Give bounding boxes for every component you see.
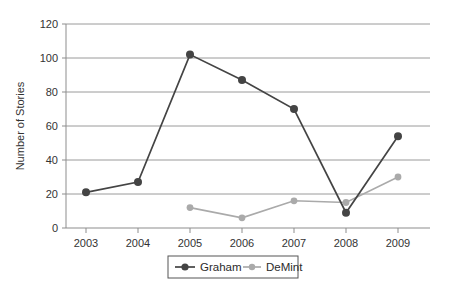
legend-swatch-demint-marker bbox=[249, 264, 255, 270]
chart-background bbox=[0, 0, 452, 291]
legend-label-demint: DeMint bbox=[266, 261, 303, 273]
demint-point bbox=[291, 197, 298, 204]
y-tick-label: 20 bbox=[46, 188, 58, 200]
y-tick-label: 100 bbox=[40, 52, 58, 64]
y-tick-label: 0 bbox=[52, 222, 58, 234]
line-chart: 120 100 80 60 40 20 0 2003 2004 2005 200… bbox=[0, 0, 452, 291]
demint-point bbox=[187, 204, 194, 211]
legend-label-graham: Graham bbox=[200, 261, 242, 273]
x-tick-label: 2008 bbox=[334, 237, 358, 249]
x-tick-label: 2003 bbox=[74, 237, 98, 249]
x-tick-label: 2007 bbox=[282, 237, 306, 249]
y-tick-label: 80 bbox=[46, 86, 58, 98]
graham-point bbox=[82, 188, 90, 196]
graham-point bbox=[134, 178, 142, 186]
graham-point bbox=[290, 105, 298, 113]
x-tick-label: 2006 bbox=[230, 237, 254, 249]
x-tick-label: 2009 bbox=[386, 237, 410, 249]
x-tick-label: 2005 bbox=[178, 237, 202, 249]
y-tick-label: 120 bbox=[40, 18, 58, 30]
graham-point bbox=[186, 51, 194, 59]
chart-legend: Graham DeMint bbox=[168, 256, 303, 278]
demint-point bbox=[343, 199, 350, 206]
demint-point bbox=[239, 214, 246, 221]
graham-point bbox=[342, 209, 350, 217]
legend-swatch-graham-marker bbox=[181, 263, 188, 270]
chart-figure: 120 100 80 60 40 20 0 2003 2004 2005 200… bbox=[0, 0, 452, 291]
x-tick-label: 2004 bbox=[126, 237, 150, 249]
y-tick-label: 40 bbox=[46, 154, 58, 166]
y-tick-label: 60 bbox=[46, 120, 58, 132]
graham-point bbox=[238, 76, 246, 84]
y-axis-title: Number of Stories bbox=[14, 81, 26, 170]
graham-point bbox=[394, 132, 402, 140]
demint-point bbox=[395, 174, 402, 181]
